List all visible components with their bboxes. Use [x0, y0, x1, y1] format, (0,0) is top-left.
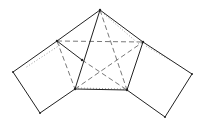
geometric-diagram — [0, 0, 202, 124]
dotted-shading — [25, 14, 170, 89]
vertex-dots — [12, 9, 193, 118]
dashed-edges — [57, 10, 143, 90]
solid-edges — [13, 10, 192, 117]
